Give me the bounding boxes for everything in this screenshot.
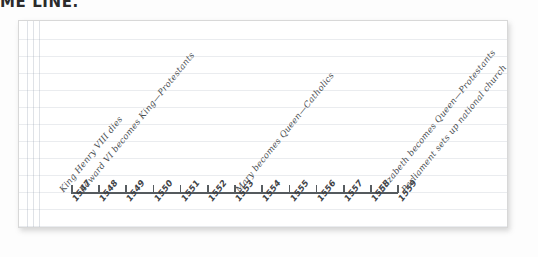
tick-mark [289, 185, 291, 193]
margin-line-2 [33, 21, 34, 227]
margin-line-1 [27, 21, 28, 227]
tick-mark [180, 185, 182, 193]
page-title: ME LINE. [0, 0, 79, 13]
notebook-card: 1547154815491550155115521553155415551556… [18, 20, 508, 228]
tick-mark [153, 185, 155, 193]
tick-mark [316, 185, 318, 193]
margin-line-3 [39, 21, 40, 227]
worksheet-page: { "heading": { "text": "ME LINE." }, "ti… [0, 0, 538, 257]
